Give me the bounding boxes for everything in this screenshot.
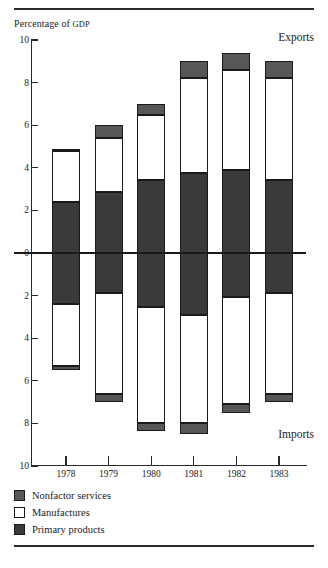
bar-segment-import-primary (180, 253, 208, 315)
zero-line (14, 252, 306, 254)
y-axis-tick-label: 10 (20, 461, 30, 471)
legend-swatch-nonfactor (14, 490, 25, 501)
x-axis-tick-label: 1979 (99, 469, 118, 479)
y-axis-tick-label: 8 (24, 418, 29, 428)
bar-segment-export-primary (222, 170, 250, 253)
legend-label-manufactures: Manufactures (32, 507, 90, 518)
bar-segment-export-nonfact (222, 53, 250, 70)
y-axis-tick-label: 6 (24, 120, 29, 130)
bar-segment-export-manuf (137, 115, 165, 180)
bar-segment-export-manuf (222, 70, 250, 170)
y-axis-tick (31, 295, 38, 296)
bar-segment-export-nonfact (180, 61, 208, 78)
bar-segment-export-primary (52, 202, 80, 253)
bar-segment-import-nonfact (180, 423, 208, 434)
y-axis-tick (31, 423, 38, 424)
bar-segment-import-nonfact (137, 423, 165, 430)
bar-segment-import-manuf (137, 307, 165, 423)
bar-segment-export-primary (95, 192, 123, 253)
bar-segment-import-nonfact (52, 366, 80, 370)
bar-segment-export-primary (180, 173, 208, 253)
x-axis-tick-label: 1978 (57, 469, 76, 479)
bar-segment-import-primary (137, 253, 165, 307)
y-axis-tick-label: 6 (24, 376, 29, 386)
chart-figure: Percentage of GDP Exports Imports 108642… (0, 0, 328, 568)
y-axis-tick (31, 167, 38, 168)
bar-segment-import-nonfact (222, 404, 250, 413)
y-axis-tick (31, 338, 38, 339)
bar-segment-import-primary (222, 253, 250, 297)
bar-segment-import-primary (95, 253, 123, 293)
x-axis-tick (193, 456, 194, 466)
legend-swatch-manufactures (14, 507, 25, 518)
y-axis-tick-label: 10 (20, 35, 30, 45)
bar-segment-import-manuf (95, 293, 123, 393)
x-axis-tick-label: 1983 (270, 469, 289, 479)
bar-segment-export-primary (265, 180, 293, 253)
y-axis-tick (31, 380, 38, 381)
bar-segment-export-manuf (52, 151, 80, 202)
chart-legend: Nonfactor services Manufactures Primary … (14, 487, 111, 538)
bar-segment-export-nonfact (52, 149, 80, 151)
legend-label-primary: Primary products (32, 524, 105, 535)
y-axis-tick (31, 210, 38, 211)
y-axis-tick (31, 125, 38, 126)
bar-segment-import-primary (265, 253, 293, 293)
legend-item-nonfactor: Nonfactor services (14, 487, 111, 504)
x-axis-tick (236, 456, 237, 466)
bar-segment-import-manuf (265, 293, 293, 393)
bar-segment-import-nonfact (95, 394, 123, 403)
bar-segment-import-manuf (180, 315, 208, 424)
bar-segment-import-primary (52, 253, 80, 304)
x-axis-tick-label: 1980 (142, 469, 161, 479)
y-axis-tick (31, 82, 38, 83)
x-axis-tick (151, 456, 152, 466)
y-axis-tick-label: 8 (24, 78, 29, 88)
bar-segment-export-manuf (95, 138, 123, 192)
y-axis-tick (31, 39, 38, 40)
bar-segment-import-manuf (52, 304, 80, 366)
x-axis-tick (278, 456, 279, 466)
y-axis-tick (31, 465, 38, 466)
legend-swatch-primary (14, 524, 25, 535)
x-axis-tick (108, 456, 109, 466)
bar-segment-export-primary (137, 180, 165, 253)
bar-segment-export-manuf (265, 78, 293, 179)
bar-segment-export-nonfact (95, 125, 123, 138)
bar-segment-import-manuf (222, 297, 250, 405)
bar-segment-export-nonfact (137, 104, 165, 115)
legend-label-nonfactor: Nonfactor services (32, 490, 111, 501)
bar-segment-export-nonfact (265, 61, 293, 78)
x-axis-tick-label: 1981 (184, 469, 203, 479)
bar-segment-import-nonfact (265, 394, 293, 403)
y-axis-tick-label: 2 (24, 291, 29, 301)
bottom-rule (14, 545, 314, 547)
x-axis-tick-label: 1982 (227, 469, 246, 479)
x-axis-tick (65, 456, 66, 466)
legend-item-manufactures: Manufactures (14, 504, 111, 521)
y-axis-tick-label: 2 (24, 205, 29, 215)
plot-area: 1086420246810197819791980198119821983 (0, 0, 328, 568)
y-axis-tick-label: 4 (24, 163, 29, 173)
legend-item-primary: Primary products (14, 521, 111, 538)
x-axis-line (31, 465, 307, 466)
y-axis-tick-label: 4 (24, 333, 29, 343)
bar-segment-export-manuf (180, 78, 208, 173)
